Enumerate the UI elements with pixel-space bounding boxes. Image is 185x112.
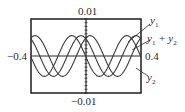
x-max-label: 0.4 <box>145 51 159 62</box>
legend-y1: y1 <box>150 15 158 29</box>
y-max-label: 0.01 <box>78 6 97 17</box>
legend-y2: y2 <box>147 72 155 86</box>
x-min-label: −0.4 <box>7 51 27 62</box>
y-min-label: −0.01 <box>71 96 96 107</box>
legend-y1-plus-y2: y1 + y2 <box>147 33 177 47</box>
